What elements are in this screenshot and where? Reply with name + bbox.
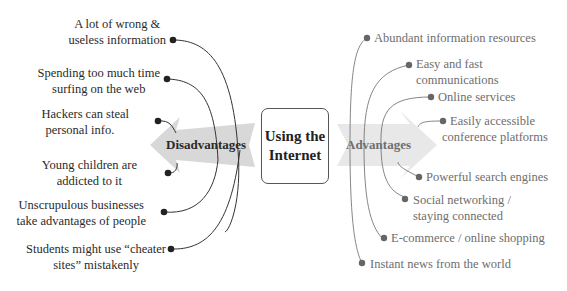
disadvantage-item: A lot of wrong & useless information — [68, 16, 166, 48]
disadvantage-item: Hackers can steal personal info. — [42, 106, 129, 138]
disadvantages-heading: Disadvantages — [166, 137, 246, 153]
item-line: surfing on the web — [37, 81, 160, 97]
item-line: E-commerce / online shopping — [391, 230, 545, 246]
advantage-item: Instant news from the world — [370, 256, 511, 272]
disadvantage-item: Young children are addicted to it — [42, 157, 137, 189]
item-line: Abundant information resources — [374, 30, 536, 46]
item-line: useless information — [68, 32, 166, 48]
item-line: personal info. — [42, 122, 129, 138]
item-line: Social networking / — [413, 192, 511, 208]
item-line: Easy and fast — [416, 56, 499, 72]
central-topic-line1: Using the — [265, 127, 325, 146]
advantages-heading: Advantages — [346, 137, 411, 153]
advantage-item: Powerful search engines — [426, 169, 548, 185]
item-line: sites” mistakenly — [26, 257, 166, 273]
advantage-item: E-commerce / online shopping — [391, 230, 545, 246]
item-line: conference platforms — [442, 129, 548, 145]
advantage-item: Social networking / staying connected — [413, 192, 511, 224]
disadvantage-item: Spending too much time surfing on the we… — [37, 65, 160, 97]
item-line: Online services — [438, 89, 515, 105]
item-line: staying connected — [413, 208, 511, 224]
advantage-item: Easy and fast communications — [416, 56, 499, 88]
item-line: Young children are — [42, 157, 137, 173]
disadvantage-item: Unscrupulous businesses take advantages … — [17, 197, 146, 229]
advantage-item: Abundant information resources — [374, 30, 536, 46]
item-line: Instant news from the world — [370, 256, 511, 272]
advantage-item: Online services — [438, 89, 515, 105]
central-topic-line2: Internet — [265, 146, 325, 165]
item-line: addicted to it — [42, 173, 137, 189]
central-topic: Using the Internet — [261, 108, 329, 184]
advantage-item: Easily accessible conference platforms — [450, 113, 548, 145]
item-line: take advantages of people — [17, 213, 146, 229]
disadvantage-item: Students might use “cheater sites” mista… — [26, 241, 166, 273]
item-line: Easily accessible — [450, 113, 548, 129]
item-line: Hackers can steal — [42, 106, 129, 122]
item-line: A lot of wrong & — [68, 16, 166, 32]
item-line: Unscrupulous businesses — [17, 197, 146, 213]
item-line: Powerful search engines — [426, 169, 548, 185]
item-line: communications — [416, 72, 499, 88]
item-line: Students might use “cheater — [26, 241, 166, 257]
item-line: Spending too much time — [37, 65, 160, 81]
